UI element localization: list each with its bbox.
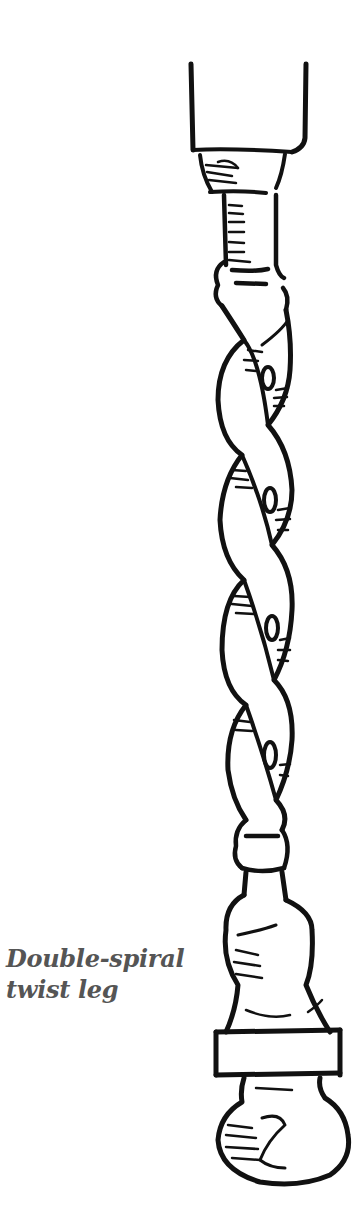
ball-foot (218, 1078, 349, 1184)
figure-caption: Double-spiral twist leg (6, 943, 196, 1005)
neck (224, 195, 284, 278)
caption-line-2: twist leg (6, 974, 196, 1005)
top-collar (193, 149, 292, 193)
double-spiral-twist (218, 306, 292, 830)
caption-line-1: Double-spiral (6, 943, 196, 974)
lower-ring (235, 820, 288, 871)
top-post (191, 64, 306, 152)
bulb (225, 872, 330, 1032)
twist-leg-illustration (0, 0, 362, 1220)
square-block (216, 1030, 340, 1075)
